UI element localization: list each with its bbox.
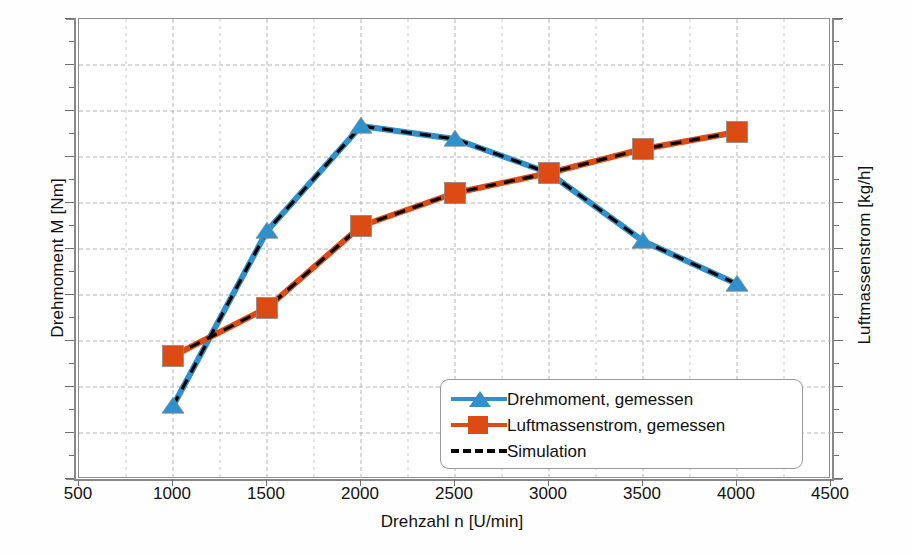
y-axis-tick-left [69,87,74,88]
y-axis-tick-left [69,271,74,272]
y-axis-tick-left [69,225,74,226]
y-axis-left-title: Drehmoment M [Nm] [48,138,68,378]
y-axis-tick-left [65,64,74,65]
y-axis-tick-right [834,64,843,65]
y-axis-left-spine [74,18,76,479]
y-axis-tick-left [65,478,74,479]
x-axis-tick-label: 1000 [137,484,207,504]
y-axis-tick-left [65,18,74,19]
y-axis-tick-right [834,248,843,249]
y-axis-tick-right [834,340,843,341]
y-axis-tick-left [65,432,74,433]
y-axis-tick-left [65,248,74,249]
x-axis-tick-label: 4500 [795,484,865,504]
data-marker-square [163,346,184,367]
y-axis-tick-right [834,41,839,42]
y-axis-tick-right [834,179,839,180]
y-axis-tick-right [834,271,839,272]
y-axis-tick-left [65,386,74,387]
legend-label-simulation: Simulation [507,442,586,461]
simulation-overlay-line [173,126,737,406]
legend-key-triangle-line [451,388,507,410]
data-marker-square [539,163,560,184]
data-marker-square [257,298,278,319]
data-marker-square [633,139,654,160]
x-axis-tick-label: 2000 [325,484,395,504]
y-axis-tick-right [834,409,839,410]
y-axis-tick-left [65,156,74,157]
x-axis-title: Drehzahl n [U/min] [74,512,830,532]
y-axis-tick-left [69,455,74,456]
legend-key-square-line [451,414,507,436]
data-marker-square [445,183,466,204]
y-axis-tick-right [834,133,839,134]
y-axis-tick-left [69,133,74,134]
x-axis-tick-label: 1500 [231,484,301,504]
chart-figure: Drehmoment M [Nm] Luftmassenstrom [kg/h]… [0,0,912,554]
y-axis-tick-right [834,156,843,157]
y-axis-tick-right [834,455,839,456]
y-axis-tick-left [69,409,74,410]
x-axis-tick-label: 4000 [701,484,771,504]
y-axis-tick-right [834,18,843,19]
legend-label-drehmoment: Drehmoment, gemessen [507,390,693,409]
y-axis-tick-right [834,202,843,203]
legend-label-luftmassenstrom: Luftmassenstrom, gemessen [507,416,725,435]
legend-key-dashed-line [451,440,507,462]
y-axis-tick-left [69,363,74,364]
legend-item-drehmoment[interactable]: Drehmoment, gemessen [441,386,802,412]
legend-item-simulation[interactable]: Simulation [441,438,802,464]
y-axis-tick-right [834,363,839,364]
chart-legend[interactable]: Drehmoment, gemessen Luftmassenstrom, ge… [440,379,803,469]
y-axis-tick-left [65,340,74,341]
y-axis-tick-left [69,41,74,42]
y-axis-tick-right [834,110,843,111]
y-axis-tick-left [69,179,74,180]
y-axis-tick-left [65,110,74,111]
y-axis-tick-right [834,294,843,295]
y-axis-tick-right [834,386,843,387]
y-axis-tick-right [834,87,839,88]
y-axis-tick-left [65,294,74,295]
y-axis-tick-left [69,317,74,318]
y-axis-right-title: Luftmassenstrom [kg/h] [855,135,875,375]
x-axis-tick-label: 500 [43,484,113,504]
y-axis-tick-left [65,202,74,203]
y-axis-tick-right [834,432,843,433]
y-axis-tick-right [834,225,839,226]
x-axis-tick-label: 3000 [513,484,583,504]
data-marker-square [351,216,372,237]
data-marker-square [727,122,748,143]
y-axis-tick-right [834,478,843,479]
data-marker-triangle [162,397,184,413]
y-axis-tick-right [834,317,839,318]
x-axis-tick-label: 3500 [607,484,677,504]
series-line-drehmoment [173,126,737,406]
legend-item-luftmassenstrom[interactable]: Luftmassenstrom, gemessen [441,412,802,438]
x-axis-tick-label: 2500 [419,484,489,504]
